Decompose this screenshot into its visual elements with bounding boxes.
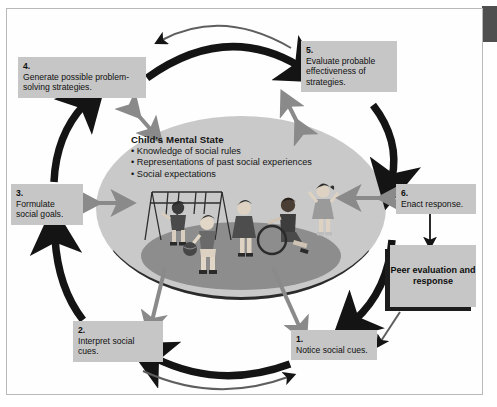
peer-evaluation-box[interactable]: Peer evaluation and response	[390, 245, 476, 307]
step-box-2[interactable]: 2.Interpret social cues.	[73, 321, 163, 362]
step-4-number: 4.	[23, 61, 33, 72]
step-5-number: 5.	[306, 45, 316, 56]
step-1-number: 1.	[296, 334, 306, 345]
mental-state-heading: Child's Mental State	[131, 134, 356, 145]
step-2-number: 2.	[78, 325, 88, 336]
step-box-5[interactable]: 5.Evaluate probable effectiveness of str…	[301, 41, 397, 92]
step-3-number: 3.	[16, 188, 26, 199]
mental-state-bullet-3: • Social expectations	[131, 169, 356, 180]
step-3-label: Formulate social goals.	[16, 199, 77, 220]
step-box-4[interactable]: 4.Generate possible problem-solving stra…	[18, 57, 146, 98]
peer-evaluation-label: Peer evaluation and response	[390, 265, 476, 288]
step-1-label: Notice social cues.	[296, 345, 368, 356]
step-2-label: Interpret social cues.	[78, 336, 157, 357]
step-5-label: Evaluate probable effectiveness of strat…	[306, 56, 391, 88]
step-4-label: Generate possible problem-solving strate…	[23, 72, 140, 93]
step-6-number: 6.	[401, 188, 411, 199]
step-6-label: Enact response.	[401, 199, 463, 210]
mental-state-text-block: Child's Mental State • Knowledge of soci…	[131, 134, 356, 180]
figure-canvas: Child's Mental State • Knowledge of soci…	[0, 0, 497, 407]
mental-state-bullet-1: • Knowledge of social rules	[131, 146, 356, 157]
mental-state-bullet-2: • Representations of past social experie…	[131, 157, 356, 168]
step-box-6[interactable]: 6.Enact response.	[396, 184, 476, 214]
step-box-1[interactable]: 1.Notice social cues.	[291, 330, 377, 360]
page-corner-tab	[482, 6, 497, 42]
step-box-3[interactable]: 3.Formulate social goals.	[11, 184, 83, 225]
